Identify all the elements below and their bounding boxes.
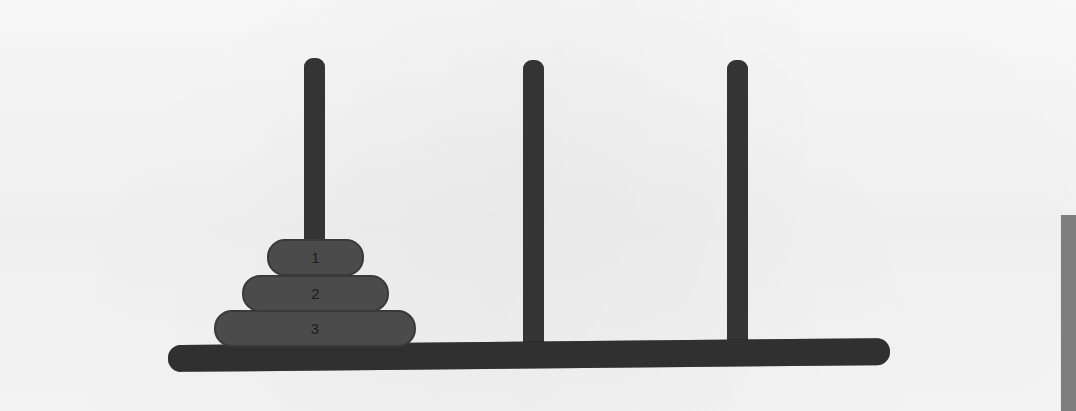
- disk-2[interactable]: 2: [242, 275, 389, 312]
- disk-2-label: 2: [311, 286, 319, 301]
- disk-3-label: 3: [311, 321, 319, 336]
- peg-3[interactable]: [727, 60, 748, 348]
- disk-1[interactable]: 1: [267, 239, 364, 276]
- peg-2[interactable]: [523, 60, 544, 348]
- hanoi-puzzle-scene: 3 2 1: [0, 0, 1076, 411]
- vertical-scrollbar-thumb[interactable]: [1060, 215, 1076, 411]
- disk-1-label: 1: [311, 250, 319, 265]
- hanoi-board: 3 2 1: [0, 0, 1076, 411]
- disk-3[interactable]: 3: [214, 310, 416, 347]
